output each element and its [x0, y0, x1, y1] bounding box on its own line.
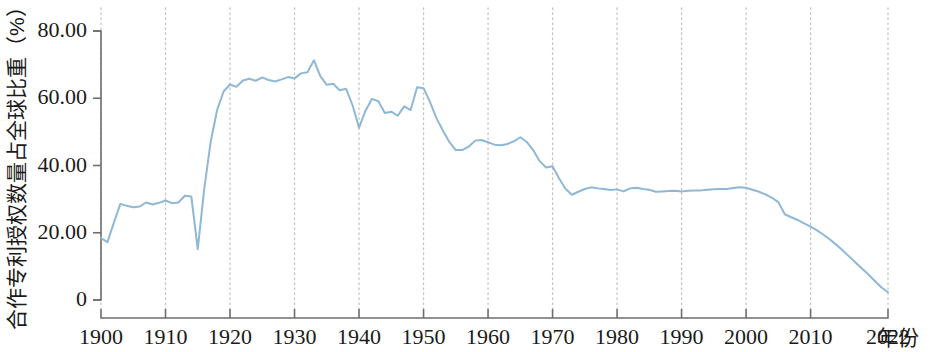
x-tick-label-2010: 2010 — [789, 324, 833, 349]
y-tick-label-60.00: 60.00 — [38, 84, 88, 109]
x-axis-line — [101, 309, 888, 318]
y-tick-label-0: 0 — [76, 286, 87, 311]
y-axis-title: 合作专利授权数量占全球比重（%） — [5, 0, 28, 330]
data-series — [101, 60, 888, 292]
x-tick-label-1990: 1990 — [660, 324, 704, 349]
axis-titles: 合作专利授权数量占全球比重（%） 年份 — [5, 0, 919, 349]
x-tick-label-1940: 1940 — [337, 324, 381, 349]
line-chart: 020.0040.0060.0080.00 190019101920193019… — [0, 0, 938, 352]
x-tick-label-1930: 1930 — [273, 324, 317, 349]
x-tick-label-1980: 1980 — [595, 324, 639, 349]
x-tick-label-1900: 1900 — [79, 324, 123, 349]
x-axis-ticks: 1900191019201930194019501960197019801990… — [79, 309, 910, 349]
x-tick-label-1960: 1960 — [466, 324, 510, 349]
chart-figure: 020.0040.0060.0080.00 190019101920193019… — [0, 0, 938, 352]
x-tick-label-1920: 1920 — [208, 324, 252, 349]
x-tick-label-1910: 1910 — [144, 324, 188, 349]
x-tick-label-2000: 2000 — [724, 324, 768, 349]
x-tick-label-1950: 1950 — [402, 324, 446, 349]
gridlines — [101, 8, 888, 312]
y-tick-label-40.00: 40.00 — [38, 152, 88, 177]
y-axis-ticks: 020.0040.0060.0080.00 — [38, 17, 102, 311]
x-axis-title: 年份 — [877, 326, 919, 349]
axes — [93, 31, 888, 318]
series-line-0 — [101, 60, 888, 292]
x-tick-label-1970: 1970 — [531, 324, 575, 349]
y-tick-label-80.00: 80.00 — [38, 17, 88, 42]
y-tick-label-20.00: 20.00 — [38, 219, 88, 244]
